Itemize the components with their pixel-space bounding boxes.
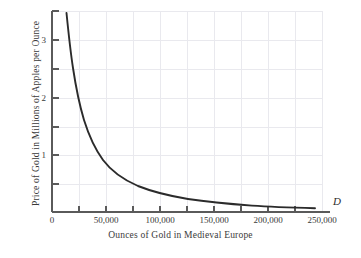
- demand-curve-path: [67, 13, 316, 208]
- vertical-gridlines: [79, 11, 322, 212]
- x-tick-label-250000: 250,000: [307, 215, 336, 225]
- axis-lines: [52, 11, 330, 212]
- demand-curve-figure: 3 2 1 0 50,000 100,000 150,000 200,000 2…: [0, 0, 361, 258]
- x-tick-label-100000: 100,000: [145, 215, 174, 225]
- x-axis-title: Ounces of Gold in Medieval Europe: [0, 230, 361, 240]
- y-axis-title: Price of Gold in Millions of Apples per …: [31, 21, 41, 206]
- demand-curve-label: D: [333, 195, 341, 207]
- x-tick-label-200000: 200,000: [253, 215, 282, 225]
- y-axis-ticks: [52, 11, 59, 184]
- x-tick-label-50000: 50,000: [94, 215, 119, 225]
- x-tick-label-150000: 150,000: [199, 215, 228, 225]
- x-tick-label-0: 0: [50, 215, 55, 225]
